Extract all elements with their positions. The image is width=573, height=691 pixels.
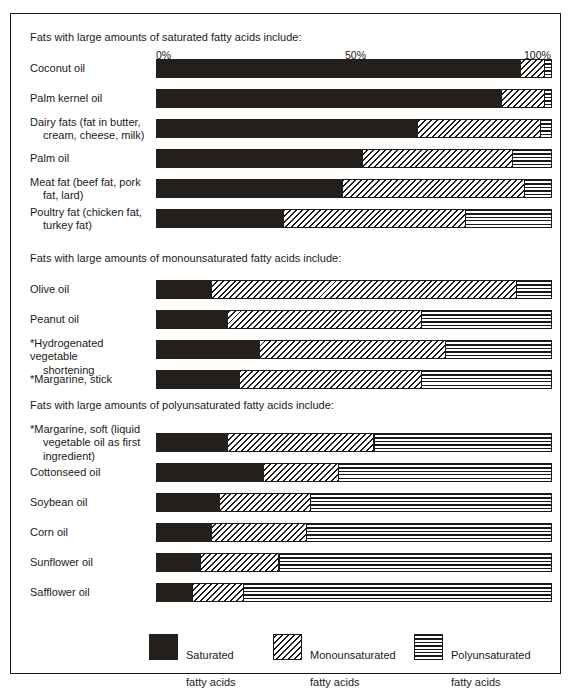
legend-label-monounsaturated: Monounsaturated fatty acids (310, 634, 396, 689)
row-label: *Margarine, soft (liquidvegetable oil as… (30, 423, 154, 464)
legend-item-monounsaturated: Monounsaturated fatty acids (273, 634, 396, 689)
row-label-line: Sunflower oil (30, 556, 93, 568)
row-label-line: *Margarine, soft (liquid (30, 423, 140, 435)
bar-segment-monounsaturated (239, 370, 422, 389)
bar-segment-monounsaturated (520, 59, 544, 78)
bar-segment-monounsaturated (211, 280, 517, 299)
group-heading-monounsaturated: Fats with large amounts of monounsaturat… (30, 252, 341, 265)
legend-label-saturated: Saturated fatty acids (186, 634, 236, 689)
bar-segment-polyunsaturated (243, 583, 552, 602)
legend-label-polyunsaturated: Polyunsaturated fatty acids (451, 634, 531, 689)
bar-segment-saturated (156, 523, 212, 542)
legend-item-polyunsaturated: Polyunsaturated fatty acids (414, 634, 531, 689)
bar-segment-saturated (156, 59, 521, 78)
row-label: Corn oil (30, 526, 154, 540)
bar-segment-monounsaturated (417, 119, 540, 138)
stacked-bar (156, 433, 552, 452)
stacked-bar (156, 59, 552, 78)
bar-segment-polyunsaturated (516, 280, 552, 299)
row-label-line: Peanut oil (30, 313, 79, 325)
group-heading-polyunsaturated: Fats with large amounts of polyunsaturat… (30, 399, 334, 412)
stacked-bar (156, 583, 552, 602)
bar-segment-polyunsaturated (544, 59, 552, 78)
stacked-bar (156, 463, 552, 482)
row-label: Peanut oil (30, 313, 154, 327)
bar-segment-monounsaturated (227, 433, 374, 452)
bar-segment-saturated (156, 493, 220, 512)
legend-swatch-monounsaturated-icon (273, 634, 302, 660)
bar-segment-saturated (156, 553, 200, 572)
row-label: Dairy fats (fat in butter,cream, cheese,… (30, 116, 154, 143)
legend-label-polyunsaturated-line2: fatty acids (451, 676, 501, 688)
stacked-bar (156, 493, 552, 512)
row-label-line: Olive oil (30, 283, 69, 295)
bar-segment-polyunsaturated (544, 89, 552, 108)
row-label: Palm oil (30, 152, 154, 166)
bar-segment-saturated (156, 89, 501, 108)
row-label-line: Soybean oil (30, 496, 88, 508)
legend-label-saturated-line2: fatty acids (186, 676, 236, 688)
legend-label-monounsaturated-line2: fatty acids (310, 676, 360, 688)
bar-segment-saturated (156, 433, 228, 452)
row-label-line: cream, cheese, milk) (30, 129, 154, 143)
stacked-bar (156, 370, 552, 389)
row-label-line: turkey fat) (30, 219, 154, 233)
bar-segment-monounsaturated (362, 149, 513, 168)
bar-segment-monounsaturated (192, 583, 244, 602)
row-label-line: Dairy fats (fat in butter, (30, 116, 141, 128)
bar-segment-polyunsaturated (465, 209, 552, 228)
stacked-bar (156, 179, 552, 198)
legend-swatch-saturated-icon (149, 634, 178, 660)
bar-segment-polyunsaturated (445, 340, 552, 359)
bar-segment-monounsaturated (501, 89, 545, 108)
row-label-line: Corn oil (30, 526, 68, 538)
row-label-line: vegetable oil as first (30, 436, 154, 450)
stacked-bar (156, 119, 552, 138)
bar-segment-polyunsaturated (421, 370, 552, 389)
bar-segment-saturated (156, 370, 240, 389)
row-label: Sunflower oil (30, 556, 154, 570)
bar-segment-monounsaturated (211, 523, 307, 542)
bar-segment-saturated (156, 310, 228, 329)
group-heading-saturated: Fats with large amounts of saturated fat… (30, 31, 301, 44)
row-label-line: *Hydrogenated vegetable (30, 337, 103, 363)
bar-segment-saturated (156, 179, 343, 198)
bar-segment-monounsaturated (219, 493, 311, 512)
stacked-bar (156, 340, 552, 359)
bar-segment-saturated (156, 209, 283, 228)
row-label: Soybean oil (30, 496, 154, 510)
bar-segment-monounsaturated (227, 310, 422, 329)
bar-segment-polyunsaturated (279, 553, 552, 572)
bar-segment-monounsaturated (259, 340, 446, 359)
row-label-line: Coconut oil (30, 62, 85, 74)
bar-segment-saturated (156, 463, 264, 482)
row-label-line: Safflower oil (30, 586, 90, 598)
bar-segment-polyunsaturated (421, 310, 552, 329)
row-label: Palm kernel oil (30, 92, 154, 106)
bar-segment-monounsaturated (263, 463, 339, 482)
row-label-line: Palm oil (30, 152, 69, 164)
bar-segment-monounsaturated (200, 553, 280, 572)
stacked-bar (156, 310, 552, 329)
legend-label-polyunsaturated-line1: Polyunsaturated (451, 649, 531, 661)
row-label: *Margarine, stick (30, 373, 154, 387)
bar-segment-polyunsaturated (540, 119, 552, 138)
row-label-line: Cottonseed oil (30, 466, 100, 478)
bar-segment-polyunsaturated (338, 463, 552, 482)
bar-segment-monounsaturated (342, 179, 525, 198)
row-label: Meat fat (beef fat, porkfat, lard) (30, 176, 154, 203)
legend-label-saturated-line1: Saturated (186, 649, 234, 661)
bar-segment-polyunsaturated (310, 493, 552, 512)
bar-segment-saturated (156, 149, 363, 168)
row-label: Olive oil (30, 283, 154, 297)
stacked-bar (156, 209, 552, 228)
row-label-line: *Margarine, stick (30, 373, 112, 385)
bar-segment-polyunsaturated (374, 433, 552, 452)
chart-frame: Fats with large amounts of saturated fat… (10, 13, 561, 674)
row-label: Cottonseed oil (30, 466, 154, 480)
row-label-line: Poultry fat (chicken fat, (30, 206, 142, 218)
stacked-bar (156, 89, 552, 108)
bar-segment-saturated (156, 583, 192, 602)
row-label: Coconut oil (30, 62, 154, 76)
row-label: Safflower oil (30, 586, 154, 600)
